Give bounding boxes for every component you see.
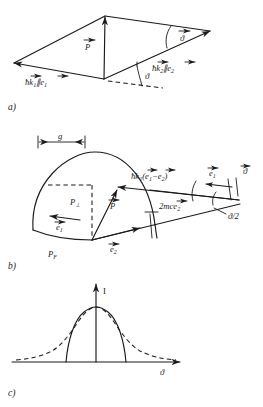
label-electron-rest-term: 2mce2 — [159, 201, 180, 212]
label-P-b: P — [109, 201, 116, 211]
angle-arc-bottom — [137, 66, 142, 86]
parallelogram-edge-right-upper — [105, 16, 210, 31]
label-e1-apex: e1 — [209, 168, 216, 179]
dashed-reference-line-a — [108, 81, 163, 88]
vector-P-b — [92, 190, 117, 240]
apex-vertical-tick-2 — [236, 178, 238, 196]
label-angle-axis: ϑ — [160, 367, 165, 377]
vector-e1-right-apex — [206, 184, 232, 187]
angle-arc-apex-half — [213, 192, 216, 205]
apex-vertical-tick — [228, 179, 231, 200]
panel-c-letter: c) — [8, 388, 15, 399]
angle-arc-right — [166, 26, 171, 48]
panel-b-fermi-sphere-diagram: g — [0, 130, 263, 272]
parallelogram-edge-left-upper — [14, 16, 105, 63]
physics-figure: ϑ ϑ P ħk1∥e1 ħk2∥e2 a) g — [0, 0, 263, 407]
label-theta-apex: ϑ — [243, 166, 248, 176]
label-fermi-momentum: PF — [47, 249, 57, 260]
vector-resultant-P — [104, 17, 105, 79]
panel-a-momentum-parallelogram: ϑ ϑ P ħk1∥e1 ħk2∥e2 a) — [0, 0, 263, 130]
label-hbar-k2-parallel-e2: ħk2∥e2 — [152, 63, 174, 74]
label-e2-b: e2 — [110, 244, 117, 255]
fermi-sphere-arc — [33, 152, 155, 230]
label-e1-b: e1 — [56, 222, 63, 233]
label-base-angle: ϑ — [145, 71, 150, 81]
transfer-line-right-part — [150, 190, 239, 200]
panel-b-letter: b) — [8, 261, 16, 272]
label-photon-momentum-transfer: ħk1(e1−e2) — [131, 171, 168, 182]
vector-e2-right — [92, 228, 140, 240]
label-hbar-k1-parallel-e1: ħk1∥e1 — [25, 77, 47, 88]
label-scattering-angle-vector: ϑ — [180, 33, 185, 43]
label-p-perpendicular: P⊥ — [69, 197, 80, 208]
label-width-g: g — [58, 131, 63, 141]
panel-c-intensity-profile: I ϑ c) — [0, 272, 263, 407]
panel-a-letter: a) — [8, 102, 16, 113]
label-half-scattering-angle: ϑ/2 — [228, 211, 240, 221]
label-intensity-axis: I — [103, 286, 106, 296]
label-resultant-P: P — [84, 42, 91, 52]
fermi-sphere-arc-tail — [155, 225, 157, 238]
angle-arc-apex-full — [192, 181, 196, 201]
vector-e1-left — [50, 216, 80, 220]
